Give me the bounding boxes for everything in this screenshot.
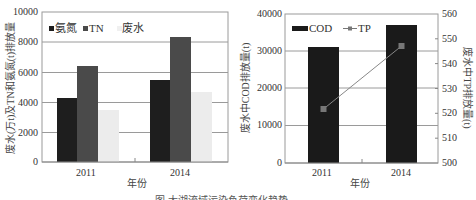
legend-swatch-ammonia: [49, 26, 54, 31]
bar-wastewater-2014: [191, 92, 212, 162]
tp-point-2011: [321, 106, 327, 112]
left-x-axis-title: 年份: [127, 178, 147, 190]
legend-label-tp: TP: [358, 23, 371, 33]
legend-label-ammonia: 氨氮: [55, 23, 77, 33]
left-xtick: 2014: [170, 168, 190, 178]
legend-label-tn: TN: [89, 23, 104, 33]
bar-wastewater-2011: [98, 110, 119, 162]
bar-tn-2014: [170, 37, 191, 162]
legend-swatch-tn: [83, 26, 88, 31]
legend-label-wastewater: 废水: [122, 23, 144, 33]
bar-cod-2011: [308, 47, 339, 163]
bar-tn-2011: [77, 66, 98, 162]
left-xtick: 2011: [76, 168, 96, 178]
right-plot-area: [236, 0, 476, 190]
figure-caption: 图 太湖流域污染负荷变化趋势: [155, 192, 288, 200]
right-y2tick: 560: [442, 9, 472, 19]
tp-point-2014: [399, 43, 405, 49]
legend-swatch-cod: [292, 26, 308, 31]
left-chart: 废水(万t)及TN和氨氮(t)排放量 10000 8000 6000 4000 …: [0, 0, 236, 190]
legend-label-cod: COD: [309, 23, 332, 33]
right-x-axis-title: 年份: [350, 178, 370, 190]
right-xtick: 2011: [312, 168, 332, 178]
bar-ammonia-2014: [150, 80, 170, 162]
right-y2-axis-title: 废水中TP排放量(t): [461, 28, 473, 148]
bar-ammonia-2011: [57, 98, 77, 162]
right-xtick: 2014: [391, 168, 411, 178]
right-y2tick: 500: [442, 158, 472, 168]
left-plot-area: [0, 0, 236, 190]
right-chart: 废水中COD排放量(t) 40000 30000 20000 10000 0: [236, 0, 476, 190]
legend-swatch-tp-marker: [348, 27, 352, 31]
